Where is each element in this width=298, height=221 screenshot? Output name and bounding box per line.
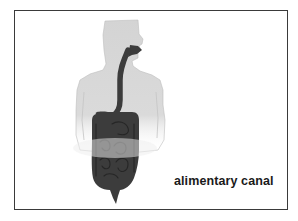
lower-body-shadow (73, 138, 157, 158)
diagram-label: alimentary canal (174, 174, 274, 188)
